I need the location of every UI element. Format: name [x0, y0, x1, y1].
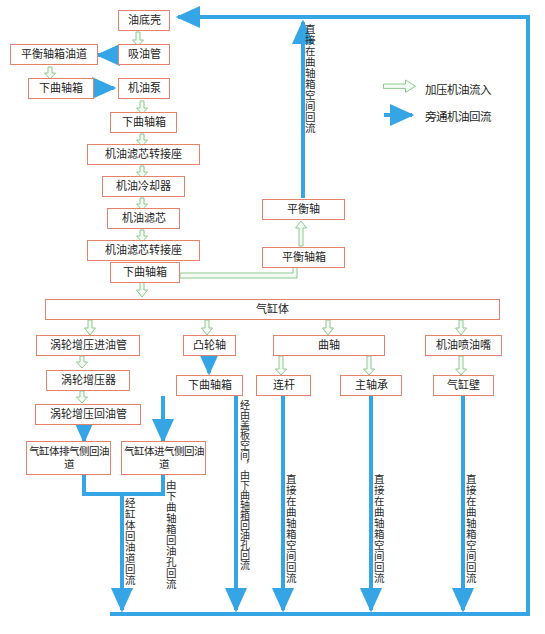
return-label-main-bearing: 直接在曲轴箱空间回流: [373, 474, 384, 616]
node-turbo-return-pipe[interactable]: 涡轮增压回油管: [35, 404, 141, 425]
return-label-conrod: 直接在曲轴箱空间回流: [285, 474, 296, 616]
legend-symbols: [384, 80, 416, 115]
return-label-block-duct: 经缸体回油道回流: [124, 498, 135, 616]
node-crankshaft[interactable]: 曲轴: [273, 335, 385, 356]
node-turbocharger[interactable]: 涡轮增压器: [46, 370, 130, 391]
node-intake-side-duct[interactable]: 气缸体进气侧回油道: [121, 441, 206, 475]
node-oil-pan[interactable]: 油底壳: [118, 10, 170, 31]
node-filter-adapter-1[interactable]: 机油滤芯转接座: [87, 144, 200, 165]
node-cylinder-block[interactable]: 气缸体: [45, 299, 500, 320]
node-lower-crankcase-3[interactable]: 下曲轴箱: [110, 262, 180, 283]
node-balance-shaft-case[interactable]: 平衡轴箱: [262, 247, 345, 268]
node-oil-cooler[interactable]: 机油冷却器: [102, 176, 185, 197]
return-label-balance-shaft: 直接在曲轴箱空间回流: [304, 24, 315, 190]
node-suction-pipe[interactable]: 吸油管: [118, 44, 170, 65]
legend-label-pressurized-inflow: 加压机油流入: [425, 81, 491, 97]
return-label-lower-crankcase: 由下曲轴箱回油孔回流: [165, 480, 176, 616]
node-filter-adapter-2[interactable]: 机油滤芯转接座: [87, 240, 200, 261]
node-lower-crankcase-4[interactable]: 下曲轴箱: [176, 375, 243, 396]
node-lower-crankcase-1[interactable]: 下曲轴箱: [28, 78, 94, 99]
legend-green-arrow-icon: [384, 80, 416, 92]
node-turbo-inlet-pipe[interactable]: 涡轮增压进油管: [36, 335, 140, 356]
node-balance-shaft[interactable]: 平衡轴: [262, 199, 345, 220]
return-label-cylinder-wall: 直接在曲轴箱空间回流: [465, 474, 476, 616]
node-cylinder-wall[interactable]: 气缸壁: [433, 375, 494, 396]
node-main-bearing[interactable]: 主轴承: [340, 375, 402, 396]
return-label-camshaft: 经由盖板空间，由下曲轴箱回油孔回流: [238, 400, 248, 614]
node-exhaust-side-duct[interactable]: 气缸体排气侧回油道: [26, 441, 111, 475]
node-conrod[interactable]: 连杆: [256, 375, 311, 396]
node-oil-pump[interactable]: 机油泵: [118, 78, 170, 99]
legend-label-bypass-return: 旁通机油回流: [425, 108, 491, 124]
node-camshaft[interactable]: 凸轮轴: [183, 335, 236, 356]
node-balance-oil-duct[interactable]: 平衡轴箱油道: [10, 44, 98, 65]
node-oil-jet[interactable]: 机油喷油嘴: [425, 335, 502, 356]
node-oil-filter[interactable]: 机油滤芯: [107, 208, 180, 229]
flowchart-canvas: 油底壳 平衡轴箱油道 吸油管 下曲轴箱 机油泵 下曲轴箱 机油滤芯转接座 机油冷…: [0, 0, 545, 634]
node-lower-crankcase-2[interactable]: 下曲轴箱: [110, 112, 177, 133]
